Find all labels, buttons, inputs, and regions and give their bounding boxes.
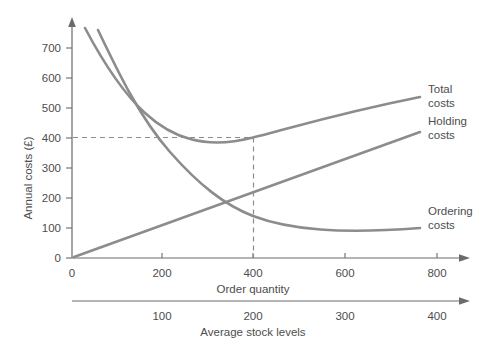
- secondary-x-tick-label-100: 100: [152, 310, 171, 322]
- series-label-ordering-costs-line2: costs: [428, 219, 455, 231]
- chart-container: 0 100 200 300 400 500 600 700 0 200 400: [0, 0, 491, 343]
- y-axis-title: Annual costs (£): [22, 136, 34, 219]
- series-curve-holding-costs: [74, 132, 420, 257]
- y-tick-label-700: 700: [42, 42, 61, 54]
- y-tick-label-600: 600: [42, 72, 61, 84]
- guide-lines: [73, 138, 254, 258]
- x-axis-title: Order quantity: [217, 283, 290, 295]
- secondary-axis-arrow-icon: [459, 297, 470, 305]
- series-label-holding-costs-line1: Holding: [428, 115, 467, 127]
- x-axis-ticks: 0 200 400 600 800: [69, 253, 447, 279]
- secondary-axis: 100 200 300 400 Average stock levels: [72, 297, 470, 338]
- secondary-x-tick-label-200: 200: [243, 310, 262, 322]
- y-tick-label-0: 0: [55, 252, 61, 264]
- y-tick-label-200: 200: [42, 192, 61, 204]
- x-tick-label-200: 200: [152, 267, 171, 279]
- series-label-ordering-costs-line1: Ordering: [428, 205, 473, 217]
- y-tick-label-100: 100: [42, 222, 61, 234]
- secondary-axis-title: Average stock levels: [200, 326, 306, 338]
- y-tick-label-400: 400: [42, 132, 61, 144]
- eoq-cost-chart: 0 100 200 300 400 500 600 700 0 200 400: [0, 0, 491, 343]
- x-tick-label-0: 0: [69, 267, 75, 279]
- x-tick-label-800: 800: [427, 267, 446, 279]
- series-curve-total-costs: [85, 28, 420, 142]
- y-tick-label-500: 500: [42, 102, 61, 114]
- series-label-holding-costs-line2: costs: [428, 129, 455, 141]
- series-labels: Total costs Holding costs Ordering costs: [428, 83, 473, 231]
- primary-axes: [68, 17, 470, 262]
- series-label-total-costs-line1: Total: [428, 83, 452, 95]
- x-tick-label-600: 600: [335, 267, 354, 279]
- series-label-total-costs-line2: costs: [428, 97, 455, 109]
- y-axis-arrow-icon: [68, 17, 76, 27]
- y-axis-ticks: 0 100 200 300 400 500 600 700: [42, 42, 72, 264]
- x-tick-label-400: 400: [243, 267, 262, 279]
- x-axis-arrow-icon: [459, 254, 470, 262]
- series-curve-ordering-costs: [98, 30, 420, 231]
- secondary-x-tick-label-400: 400: [427, 310, 446, 322]
- y-tick-label-300: 300: [42, 162, 61, 174]
- secondary-x-tick-label-300: 300: [335, 310, 354, 322]
- series-curves: [74, 28, 420, 257]
